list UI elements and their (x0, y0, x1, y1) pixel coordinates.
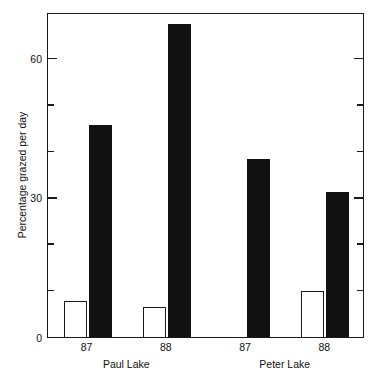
y-tick-label-60: 60 (30, 54, 42, 65)
x-tick-label-peter-87: 87 (239, 341, 251, 354)
bar-peter-lake-88-filled (326, 192, 349, 337)
bar-peter-lake-88-open (301, 291, 324, 337)
y-axis-tick-labels: 60 30 0 (0, 13, 42, 338)
plot-area (47, 13, 364, 338)
bar-paul-lake-88-open (143, 307, 166, 337)
group-label-peter-lake: Peter Lake (259, 358, 310, 371)
x-axis-tick-labels: 87 88 87 88 (47, 341, 364, 355)
y-tick-label-0: 0 (36, 333, 42, 344)
x-tick-label-peter-88: 88 (319, 341, 331, 354)
x-axis-group-labels: Paul Lake Peter Lake (47, 358, 364, 372)
bar-paul-lake-88-filled (168, 24, 191, 337)
bar-peter-lake-87-filled (247, 159, 270, 337)
x-tick-label-paul-87: 87 (81, 341, 93, 354)
bar-paul-lake-87-open (64, 301, 87, 337)
y-tick-label-30: 30 (30, 193, 42, 204)
x-tick-label-paul-88: 88 (160, 341, 172, 354)
bar-paul-lake-87-filled (89, 125, 112, 337)
bar-chart-figure: Percentage grazed per day 60 30 0 87 88 … (0, 0, 377, 379)
bars-container (48, 14, 363, 337)
group-label-paul-lake: Paul Lake (103, 358, 150, 371)
